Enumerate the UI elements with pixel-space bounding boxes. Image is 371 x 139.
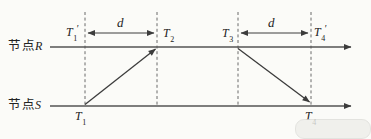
node-s-label-letter: S <box>35 98 42 112</box>
label-t4-prime: T4′ <box>314 26 327 38</box>
node-s-label-cjk: 节点 <box>8 98 35 112</box>
label-t1: T1 <box>75 110 86 122</box>
label-t3: T3 <box>222 27 233 39</box>
label-t2: T2 <box>163 27 174 39</box>
distance-label-right: d <box>268 16 275 29</box>
node-r-label-letter: R <box>35 39 43 53</box>
distance-label-left: d <box>117 16 124 29</box>
signal-arrow-t1-to-t2 <box>85 49 156 105</box>
label-t1-prime: T1′ <box>66 26 79 38</box>
node-r-label: 节点R <box>8 40 43 53</box>
node-s-label: 节点S <box>8 99 42 112</box>
scan-edge-artifact <box>295 119 371 139</box>
node-r-label-cjk: 节点 <box>8 39 35 53</box>
signal-arrow-t3-to-t4 <box>238 49 310 103</box>
